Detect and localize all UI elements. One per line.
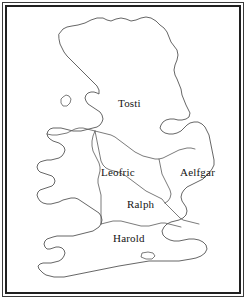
region-label-tosti: Tosti — [118, 98, 141, 109]
map-drawing — [7, 7, 239, 292]
region-label-harold: Harold — [113, 233, 145, 244]
region-label-ralph: Ralph — [127, 199, 154, 210]
isle-of-man — [61, 95, 71, 106]
map-figure: Tosti Leofric Aelfgar Ralph Harold — [0, 0, 246, 299]
region-label-leofric: Leofric — [101, 167, 135, 178]
isle-of-wight — [141, 252, 155, 259]
region-label-aelfgar: Aelfgar — [180, 167, 215, 178]
